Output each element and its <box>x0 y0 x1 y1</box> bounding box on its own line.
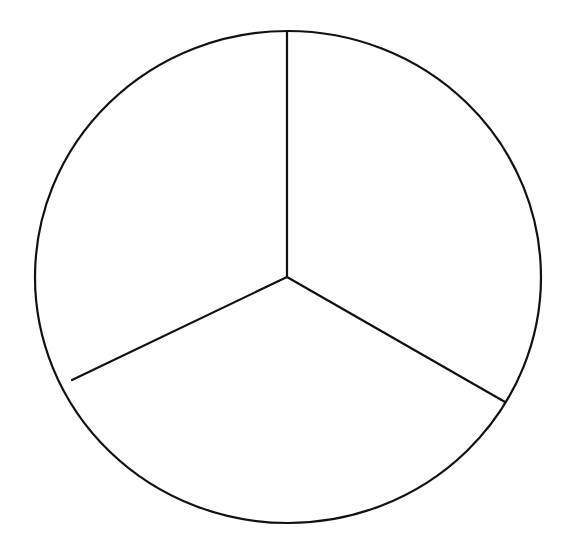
circle-diagram <box>0 0 573 556</box>
